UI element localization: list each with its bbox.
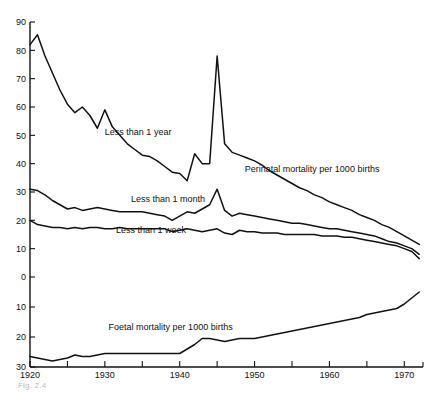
y-tick-label: 30 xyxy=(16,187,26,197)
series-annotation-label: Less than 1 month xyxy=(131,194,205,204)
y-tick-label: 50 xyxy=(16,131,26,141)
y-tick-label: 60 xyxy=(16,102,26,112)
x-tick-label: 1950 xyxy=(245,370,265,380)
series-line xyxy=(30,220,419,258)
x-tick-label: 1930 xyxy=(95,370,115,380)
series-line xyxy=(30,189,419,254)
series-annotation-label: Less than 1 week xyxy=(116,225,187,235)
series-line xyxy=(30,35,419,245)
series-annotation-label: Perinatal mortality per 1000 births xyxy=(245,164,380,174)
y-tick-label: 40 xyxy=(16,159,26,169)
y-tick-label: 20 xyxy=(16,216,26,226)
series-annotation-label: Less than 1 year xyxy=(105,127,172,137)
x-tick-label: 1970 xyxy=(394,370,414,380)
x-tick-label: 1940 xyxy=(170,370,190,380)
y-tick-label: 70 xyxy=(16,74,26,84)
x-tick-label: 1920 xyxy=(20,370,40,380)
figure-caption: Fig. 2.4 xyxy=(18,381,46,390)
y-tick-label: 0 xyxy=(21,272,26,282)
series-annotation-label: Foetal mortality per 1000 births xyxy=(109,322,234,332)
y-tick-label: 90 xyxy=(16,17,26,27)
y-tick-label-lower: 20 xyxy=(16,332,26,342)
figure-container: 0102030405060708090102030192019301940195… xyxy=(0,0,435,394)
data-series-group xyxy=(30,35,419,361)
y-tick-label: 10 xyxy=(16,244,26,254)
line-chart: 0102030405060708090102030192019301940195… xyxy=(0,0,435,394)
y-tick-label: 80 xyxy=(16,46,26,56)
x-tick-label: 1960 xyxy=(319,370,339,380)
y-tick-label-lower: 10 xyxy=(16,302,26,312)
